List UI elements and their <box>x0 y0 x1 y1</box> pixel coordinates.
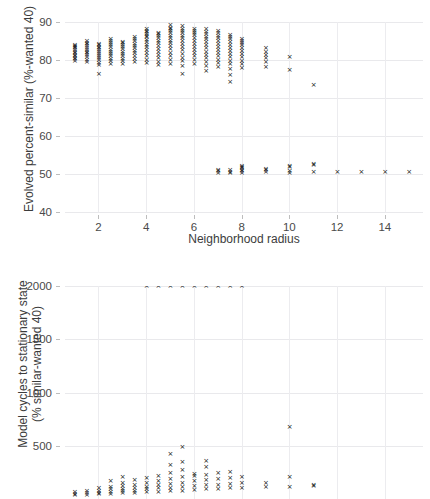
data-point-marker <box>227 73 232 78</box>
x-tick-mark <box>289 215 290 219</box>
data-point-marker <box>179 286 184 289</box>
data-point-marker <box>179 72 184 77</box>
data-point-marker <box>227 470 232 475</box>
data-point-marker <box>96 72 101 77</box>
plot-area-bottom <box>65 286 423 499</box>
data-point-marker <box>156 474 161 479</box>
data-point-marker <box>156 286 161 289</box>
data-point-marker <box>179 445 184 450</box>
data-point-marker <box>227 33 232 38</box>
y-tick-mark <box>56 339 60 340</box>
data-point-marker <box>227 482 232 487</box>
x-tick-mark <box>385 215 386 219</box>
y-axis-title-bottom-line1: Model cycles to stationary state <box>16 264 30 464</box>
gridline-horizontal <box>65 212 423 213</box>
y-axis-title-bottom: Model cycles to stationary state (% simi… <box>16 264 44 464</box>
data-point-marker <box>179 475 184 480</box>
data-point-marker <box>72 490 77 495</box>
x-tick-mark <box>242 215 243 219</box>
y-tick-mark <box>56 286 60 287</box>
data-point-marker <box>96 486 101 491</box>
data-point-marker <box>311 83 316 88</box>
data-point-marker <box>382 170 387 175</box>
y-tick-mark <box>56 393 60 394</box>
data-point-marker <box>179 24 184 29</box>
y-tick-mark <box>56 60 60 61</box>
data-point-marker <box>168 471 173 476</box>
data-point-marker <box>263 167 268 172</box>
x-tick-mark <box>337 215 338 219</box>
data-point-marker <box>132 35 137 40</box>
data-point-marker <box>311 170 316 175</box>
x-axis-ticks-top: 2468101214 <box>65 215 423 233</box>
data-point-marker <box>239 37 244 42</box>
data-point-marker <box>203 478 208 483</box>
y-tick-mark <box>56 22 60 23</box>
data-point-marker <box>72 43 77 48</box>
data-point-marker <box>96 42 101 47</box>
data-point-marker <box>191 27 196 32</box>
data-point-marker <box>84 39 89 44</box>
y-tick-label: 80 <box>39 54 52 66</box>
data-point-marker <box>108 37 113 42</box>
data-point-marker <box>215 477 220 482</box>
data-point-marker <box>215 471 220 476</box>
chart-panel-bottom: 500100015002000 Model cycles to stationa… <box>0 250 430 469</box>
plot-area-top <box>65 22 423 212</box>
data-point-marker <box>203 27 208 32</box>
data-point-marker <box>263 46 268 51</box>
data-point-marker <box>120 481 125 486</box>
data-point-marker <box>179 481 184 486</box>
data-point-marker <box>191 286 196 289</box>
data-point-marker <box>168 477 173 482</box>
data-points-bottom <box>65 286 423 499</box>
data-point-marker <box>287 68 292 73</box>
data-point-marker <box>239 481 244 486</box>
data-point-marker <box>287 164 292 169</box>
data-point-marker <box>168 452 173 457</box>
data-point-marker <box>215 29 220 34</box>
y-tick-mark <box>56 98 60 99</box>
data-point-marker <box>215 168 220 173</box>
y-tick-label: 90 <box>39 16 52 28</box>
data-point-marker <box>168 23 173 28</box>
data-point-marker <box>191 484 196 489</box>
y-axis-title-top: Evolved percent-similar (%-wanted 40) <box>22 22 36 212</box>
data-point-marker <box>239 286 244 289</box>
y-tick-mark <box>56 212 60 213</box>
y-tick-mark <box>56 446 60 447</box>
x-tick-mark <box>98 215 99 219</box>
y-tick-label: 50 <box>39 168 52 180</box>
data-points-top <box>65 22 423 212</box>
data-point-marker <box>203 459 208 464</box>
data-point-marker <box>203 473 208 478</box>
data-point-marker <box>227 80 232 85</box>
data-point-marker <box>84 489 89 494</box>
data-point-marker <box>287 55 292 60</box>
x-tick-mark <box>194 215 195 219</box>
data-point-marker <box>311 483 316 488</box>
x-tick-mark <box>146 215 147 219</box>
y-tick-mark <box>56 174 60 175</box>
data-point-marker <box>120 40 125 45</box>
data-point-marker <box>108 485 113 490</box>
data-point-marker <box>311 162 316 167</box>
x-axis-title-top: Neighborhood radius <box>65 232 423 246</box>
data-point-marker <box>287 485 292 490</box>
data-point-marker <box>144 27 149 32</box>
data-point-marker <box>108 479 113 484</box>
y-tick-label: 60 <box>39 130 52 142</box>
data-point-marker <box>215 483 220 488</box>
y-tick-mark <box>56 136 60 137</box>
data-point-marker <box>144 476 149 481</box>
data-point-marker <box>227 168 232 173</box>
data-point-marker <box>287 425 292 430</box>
chart-panel-top: 405060708090 2468101214 Neighborhood rad… <box>0 0 430 250</box>
data-point-marker <box>239 475 244 480</box>
data-point-marker <box>168 286 173 289</box>
y-axis-title-bottom-line2: (% similar-wanted 40) <box>30 264 44 464</box>
data-point-marker <box>120 475 125 480</box>
data-point-marker <box>335 170 340 175</box>
data-point-marker <box>156 479 161 484</box>
